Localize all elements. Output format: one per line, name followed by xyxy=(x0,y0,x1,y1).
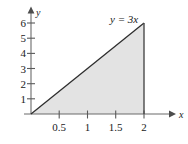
y-tick-label-1: 1 xyxy=(14,93,26,104)
graph-figure: 6 5 4 3 2 1 0.5 1 1.5 2 y x y = 3x xyxy=(0,0,188,144)
x-tick-label-0p5: 0.5 xyxy=(52,122,66,133)
y-tick-label-5: 5 xyxy=(14,33,26,44)
x-axis-arrow-icon xyxy=(169,111,176,118)
y-tick-label-2: 2 xyxy=(14,78,26,89)
y-tick-label-3: 3 xyxy=(14,63,26,74)
y-tick-label-6: 6 xyxy=(14,18,26,29)
y-axis-arrow-icon xyxy=(28,7,35,14)
y-tick-label-4: 4 xyxy=(14,48,26,59)
plot-canvas xyxy=(0,0,188,144)
x-tick-label-2: 2 xyxy=(141,122,147,133)
x-tick-label-1p5: 1.5 xyxy=(109,122,123,133)
x-axis-label: x xyxy=(179,110,183,120)
function-label: y = 3x xyxy=(110,14,138,25)
y-axis-label: y xyxy=(36,8,40,18)
x-tick-label-1: 1 xyxy=(85,122,91,133)
